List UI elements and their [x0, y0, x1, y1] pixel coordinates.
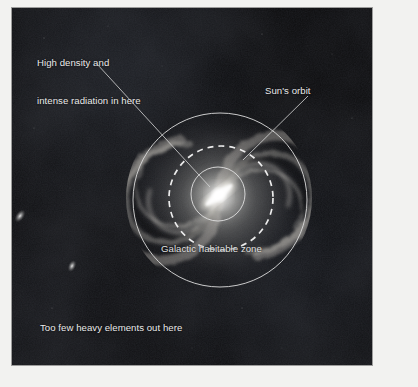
image-plate: High density and intense radiation in he…: [12, 8, 372, 365]
galactic-habitable-zone-boundary-circle: [133, 113, 307, 287]
leader-line-suns-orbit: [243, 96, 308, 160]
suns-orbit-circle: [169, 146, 273, 250]
annotation-high-density-line1: High density and: [37, 57, 141, 70]
annotation-high-density: High density and intense radiation in he…: [37, 32, 141, 133]
annotation-suns-orbit: Sun's orbit: [265, 85, 311, 98]
annotation-galactic-habitable-zone: Galactic habitable zone: [161, 243, 262, 256]
figure-root: High density and intense radiation in he…: [0, 0, 418, 387]
annotation-too-few-heavy-elements: Too few heavy elements out here: [40, 322, 182, 335]
annotation-high-density-line2: intense radiation in here: [37, 95, 141, 108]
